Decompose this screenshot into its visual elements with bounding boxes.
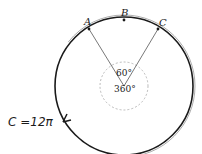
label-a: A <box>83 16 91 27</box>
arrow-head-icon <box>63 114 71 122</box>
circumference-label: C =12π <box>8 115 54 129</box>
point-a <box>88 28 91 31</box>
angle-60-label: 60° <box>116 68 132 78</box>
circle-diagram: A B C 60° 360° C =12π <box>0 0 202 154</box>
label-b: B <box>120 7 128 18</box>
angle-360-label: 360° <box>114 84 136 94</box>
label-c: C <box>159 17 167 28</box>
point-b <box>123 19 126 22</box>
point-c <box>157 28 160 31</box>
